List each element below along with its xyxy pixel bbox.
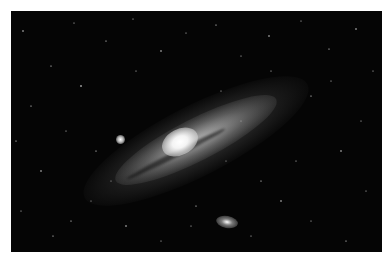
galaxy-photo bbox=[11, 11, 382, 252]
satellite-galaxy-m32 bbox=[116, 135, 125, 144]
